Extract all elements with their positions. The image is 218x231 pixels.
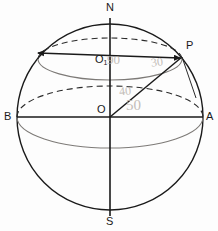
sphere-drawing-canvas	[0, 0, 218, 231]
label-point-b: B	[4, 111, 11, 122]
label-north-pole: N	[106, 2, 114, 13]
parallel-center-letter: O	[95, 53, 104, 65]
label-parallel-center-o1: O1	[95, 54, 107, 66]
annotation-ninety: 90	[107, 53, 120, 66]
label-point-a: A	[206, 111, 213, 122]
label-point-p: P	[186, 40, 193, 51]
label-south-pole: S	[106, 216, 113, 227]
annotation-forty: 40	[118, 84, 131, 97]
annotation-thirty: 30	[150, 55, 164, 69]
label-center-o: O	[97, 104, 106, 115]
sphere-diagram: N S A B P O O1 90 30 40 50	[0, 0, 218, 231]
annotation-fifty: 50	[126, 98, 141, 113]
